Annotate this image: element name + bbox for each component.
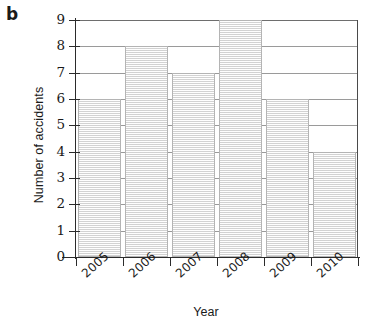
y-axis-tick-mark	[69, 99, 80, 100]
y-axis-tick-label: 9	[44, 11, 65, 27]
x-axis-tick-mark	[217, 257, 218, 266]
y-axis-tick-label: 1	[44, 222, 65, 238]
y-axis-tick-label: 0	[44, 248, 65, 264]
bar-chart-figure: b Number of accidents Year 0123456789 20…	[0, 0, 370, 328]
x-axis-tick-mark	[123, 257, 124, 266]
x-axis-title: Year	[76, 305, 336, 319]
y-axis-tick-label: 8	[44, 37, 65, 53]
bar	[78, 99, 122, 257]
bar	[172, 73, 216, 257]
gridline	[76, 73, 357, 74]
x-axis-tick-mark	[311, 257, 312, 266]
gridline	[76, 20, 357, 21]
y-axis-tick-label: 4	[44, 143, 65, 159]
plot-area	[76, 20, 358, 257]
y-axis-tick-mark	[69, 46, 80, 47]
y-axis-tick-mark	[69, 178, 80, 179]
gridline	[76, 46, 357, 47]
y-axis-tick-mark	[69, 204, 80, 205]
y-axis-tick-label: 5	[44, 116, 65, 132]
y-axis-tick-mark	[69, 20, 80, 21]
bar	[313, 152, 357, 257]
y-axis-tick-mark	[69, 231, 80, 232]
panel-letter: b	[6, 6, 18, 23]
y-axis-tick-label: 2	[44, 195, 65, 211]
x-axis-tick-mark	[358, 257, 359, 266]
y-axis-tick-label: 6	[44, 90, 65, 106]
y-axis-line	[75, 18, 76, 259]
bar	[266, 99, 310, 257]
bar	[125, 46, 169, 257]
y-axis-tick-mark	[69, 257, 80, 258]
y-axis-tick-label: 7	[44, 64, 65, 80]
x-axis-tick-mark	[170, 257, 171, 266]
y-axis-tick-mark	[69, 73, 80, 74]
bar	[219, 20, 263, 257]
y-axis-tick-mark	[69, 125, 80, 126]
x-axis-tick-mark	[264, 257, 265, 266]
y-axis-tick-label: 3	[44, 169, 65, 185]
y-axis-tick-mark	[69, 152, 80, 153]
x-axis-tick-mark	[76, 257, 77, 266]
